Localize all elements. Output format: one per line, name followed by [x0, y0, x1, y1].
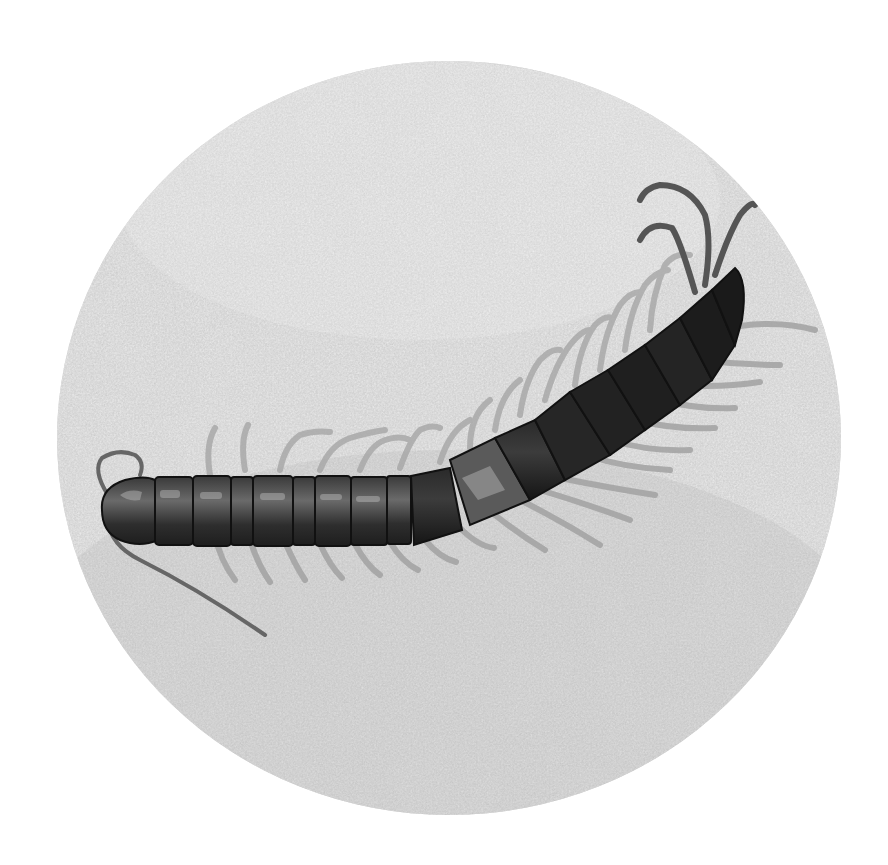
- sand-background: [0, 0, 888, 865]
- circular-photo: [0, 0, 888, 865]
